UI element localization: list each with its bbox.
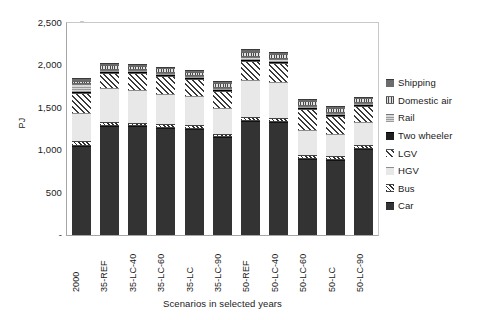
legend-label: Car [398, 200, 414, 211]
bar-segment-hgv [326, 134, 345, 156]
bar-50-lc-90[interactable] [354, 97, 373, 235]
bar-50-ref[interactable] [241, 49, 260, 235]
legend-swatch-car-icon [386, 202, 394, 210]
bar-segment-car [185, 129, 204, 235]
bar-segment-car [241, 121, 260, 235]
legend-swatch-twowheeler-icon [386, 132, 394, 140]
bar-segment-hgv [72, 113, 91, 141]
legend-item-rail[interactable]: Rail [386, 109, 482, 127]
bar-segment-lgv [156, 76, 175, 94]
bar-2000[interactable] [72, 78, 91, 235]
bar-segment-hgv [241, 80, 260, 117]
bar-segment-lgv [185, 79, 204, 96]
bar-50-lc-60[interactable] [298, 99, 317, 235]
bar-segment-lgv [241, 61, 260, 81]
x-axis-ticks: 200035-REF35-LC-4035-LC-6035-LC35-LC-905… [66, 236, 379, 298]
bar-segment-lgv [100, 73, 119, 89]
bar-35-lc[interactable] [185, 70, 204, 235]
x-axis-tick-label: 50-LC-90 [355, 236, 374, 292]
legend-item-hgv[interactable]: HGV [386, 162, 482, 180]
legend-label: Shipping [398, 77, 436, 88]
y-axis-tick-label: 500 [46, 186, 62, 197]
x-axis-tick-label: 35-LC-60 [156, 236, 175, 292]
y-axis-tick-label: 1,500 [38, 101, 62, 112]
bar-segment-rail [72, 84, 91, 92]
bar-segment-lgv [269, 63, 288, 82]
bar-segment-car [326, 160, 345, 235]
legend-swatch-domair-icon [386, 96, 394, 104]
bar-segment-lgv [128, 73, 147, 89]
x-axis-tick-label: 35-LC-40 [128, 236, 147, 292]
bar-segment-lgv [354, 106, 373, 122]
bar-segment-lgv [213, 91, 232, 108]
y-axis-tick-label: 2,000 [38, 59, 62, 70]
stacked-bar-chart: PJ -5001,0001,5002,0002,500 200035-REF35… [0, 0, 485, 320]
legend-label: Bus [398, 183, 415, 194]
legend-swatch-bus-icon [386, 184, 394, 192]
bar-35-lc-60[interactable] [156, 67, 175, 235]
bar-segment-hgv [298, 130, 317, 155]
bar-segment-lgv [326, 116, 345, 134]
bar-segment-hgv [128, 90, 147, 123]
legend-item-shipping[interactable]: Shipping [386, 74, 482, 92]
legend-item-car[interactable]: Car [386, 197, 482, 215]
legend-item-lgv[interactable]: LGV [386, 144, 482, 162]
bar-50-lc-40[interactable] [269, 52, 288, 235]
bar-50-lc[interactable] [326, 106, 345, 235]
bar-segment-lgv [72, 93, 91, 113]
bar-35-lc-90[interactable] [213, 81, 232, 235]
bar-segment-lgv [298, 109, 317, 130]
legend-item-domair[interactable]: Domestic air [386, 92, 482, 110]
x-axis-tick-label: 35-LC-90 [213, 236, 232, 292]
bar-segment-car [298, 159, 317, 235]
legend-label: Rail [398, 112, 415, 123]
legend-label: HGV [398, 165, 419, 176]
bar-segment-hgv [185, 96, 204, 125]
legend-swatch-lgv-icon [386, 149, 394, 157]
x-axis-tick-label: 2000 [71, 236, 90, 292]
legend-swatch-rail-icon [386, 114, 394, 122]
legend-swatch-hgv-icon [386, 167, 394, 175]
x-axis-title: Scenarios in selected years [66, 298, 379, 309]
legend: ShippingDomestic airRailTwo wheelerLGVHG… [386, 74, 482, 215]
bar-segment-car [213, 137, 232, 235]
bar-segment-hgv [213, 108, 232, 134]
x-axis-tick-label: 35-REF [99, 236, 118, 292]
legend-label: Two wheeler [398, 130, 452, 141]
bar-segment-car [156, 128, 175, 235]
legend-label: Domestic air [398, 95, 452, 106]
bar-35-ref[interactable] [100, 63, 119, 235]
y-axis-ticks: -5001,0001,5002,0002,500 [18, 14, 62, 242]
bar-segment-hgv [354, 122, 373, 145]
legend-label: LGV [398, 148, 417, 159]
legend-item-bus[interactable]: Bus [386, 180, 482, 198]
bar-segment-car [269, 122, 288, 235]
x-axis-tick-label: 50-LC [327, 236, 346, 292]
x-axis-tick-label: 50-LC-60 [298, 236, 317, 292]
legend-swatch-shipping-icon [386, 79, 394, 87]
bar-segment-car [100, 126, 119, 235]
x-axis-tick-label: 50-REF [241, 236, 260, 292]
bar-segment-hgv [269, 82, 288, 118]
bar-35-lc-40[interactable] [128, 64, 147, 235]
bar-segment-hgv [100, 88, 119, 122]
x-axis-tick-label: 35-LC [185, 236, 204, 292]
x-axis-tick-label: 50-LC-40 [270, 236, 289, 292]
y-axis-tick-label: 2,500 [38, 17, 62, 28]
bar-segment-hgv [156, 94, 175, 125]
plot-area [66, 22, 379, 236]
bar-group [67, 23, 378, 235]
y-axis-tick-label: - [59, 229, 62, 240]
bar-segment-car [72, 146, 91, 235]
bar-segment-car [128, 126, 147, 235]
legend-item-twowheeler[interactable]: Two wheeler [386, 127, 482, 145]
y-axis-tick-label: 1,000 [38, 144, 62, 155]
bar-segment-car [354, 149, 373, 235]
